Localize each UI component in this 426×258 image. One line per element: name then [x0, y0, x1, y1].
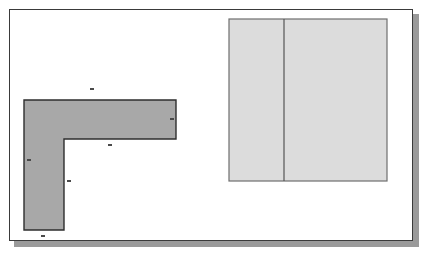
dimension-label-inner-vertical[interactable] — [67, 180, 71, 182]
screenshot-canvas — [0, 0, 426, 258]
l-shaped-region[interactable] — [24, 100, 176, 230]
dimension-label-right[interactable] — [170, 118, 174, 120]
dimension-label-top[interactable] — [90, 88, 94, 90]
technical-drawing — [0, 0, 426, 258]
dimension-label-inner-top[interactable] — [108, 144, 112, 146]
dimension-label-left[interactable] — [27, 159, 31, 161]
light-rectangle-region[interactable] — [229, 19, 387, 181]
dimension-label-bottom[interactable] — [41, 235, 45, 237]
drawing-svg — [0, 0, 426, 258]
